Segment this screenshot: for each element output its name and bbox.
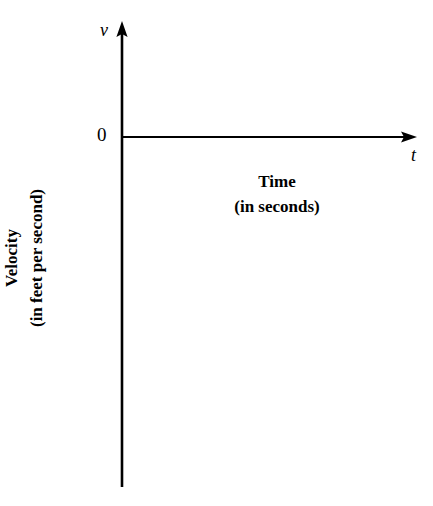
horizontal-axis-caption-line-1: Time xyxy=(177,170,377,195)
horizontal-axis-caption-line-2: (in seconds) xyxy=(177,195,377,220)
vertical-axis-symbol: v xyxy=(100,21,108,39)
velocity-time-figure: v t 0 Time (in seconds) Velocity (in fee… xyxy=(0,0,433,506)
horizontal-axis-symbol: t xyxy=(411,146,416,164)
vertical-axis-caption-line-1: Velocity xyxy=(0,175,25,341)
vertical-axis-caption-line-2: (in feet per second) xyxy=(25,175,50,341)
horizontal-axis-caption: Time (in seconds) xyxy=(177,170,377,219)
origin-label: 0 xyxy=(97,125,107,144)
vertical-axis-caption: Velocity (in feet per second) xyxy=(0,175,80,341)
